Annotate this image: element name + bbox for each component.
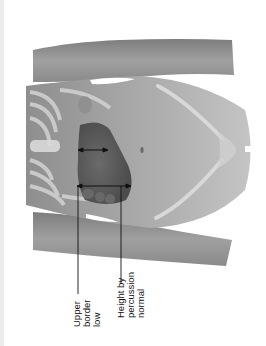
torso bbox=[26, 76, 251, 228]
navel bbox=[140, 147, 143, 153]
sternum bbox=[30, 140, 60, 152]
label-height-by-percussion: Height by percussion normal bbox=[116, 272, 146, 318]
arm-top bbox=[33, 39, 234, 82]
label-line: normal bbox=[136, 272, 146, 318]
label-line: low bbox=[92, 300, 102, 327]
label-upper-border: Upper border low bbox=[72, 300, 102, 327]
